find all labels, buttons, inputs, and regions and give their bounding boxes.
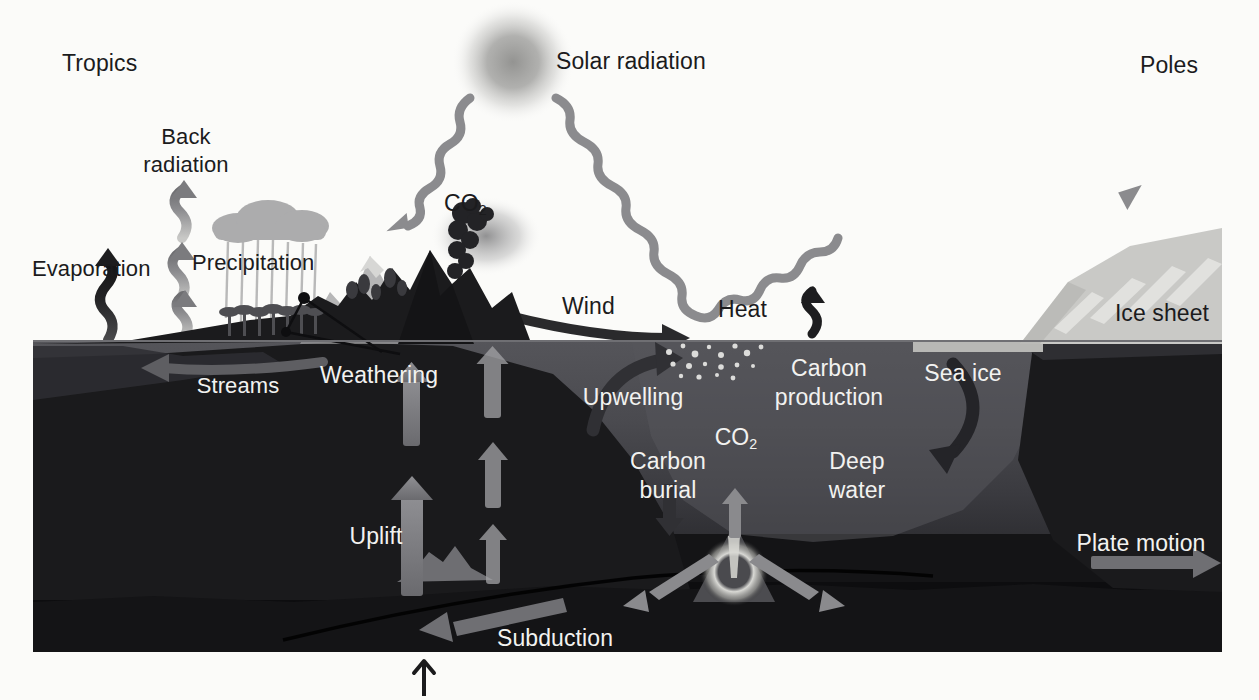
diagram-canvas: Tropics Poles Solar radiation Back radia… (0, 0, 1259, 700)
ice-sheet-label: Ice sheet (1115, 300, 1209, 327)
surface-features-layer (0, 0, 1259, 700)
weathering-dot-upper (298, 292, 310, 304)
weathering-dot-lower (281, 327, 291, 337)
